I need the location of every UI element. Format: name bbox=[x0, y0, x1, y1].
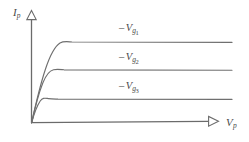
x-axis-subscript: p bbox=[233, 121, 237, 130]
x-axis-label: Vp bbox=[226, 117, 237, 130]
curve-vg2 bbox=[32, 69, 232, 122]
triangle-right-icon bbox=[209, 116, 219, 126]
plot-canvas bbox=[0, 0, 249, 142]
curve-label-vg1: –Vg1 bbox=[119, 23, 139, 36]
minus-sign: – bbox=[119, 22, 124, 33]
curve-vg3 bbox=[32, 98, 232, 123]
curve-label-sub-index: 1 bbox=[135, 29, 138, 36]
triangle-up-icon bbox=[27, 11, 36, 20]
curve-label-vg2: –Vg2 bbox=[119, 52, 139, 65]
minus-sign: – bbox=[119, 80, 124, 91]
minus-sign: – bbox=[119, 51, 124, 62]
curve-label-vg3: –Vg3 bbox=[119, 81, 139, 94]
plate-characteristic-curves-figure: Ip Vp –Vg1 –Vg2 –Vg3 bbox=[0, 0, 249, 142]
curve-label-sub-index: 2 bbox=[135, 58, 138, 65]
x-axis-line bbox=[31, 121, 208, 122]
y-axis-subscript: p bbox=[17, 11, 21, 20]
y-axis-label: Ip bbox=[13, 7, 21, 20]
curve-label-sub-index: 3 bbox=[135, 87, 138, 94]
x-axis-symbol: V bbox=[226, 116, 233, 128]
